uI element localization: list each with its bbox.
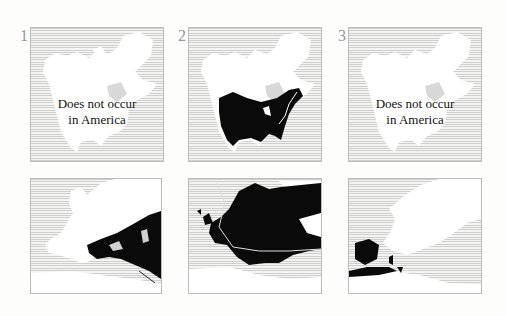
- map-panel-2-north-america: [188, 27, 322, 162]
- map-panel-1-north-america: Does not occur in America: [30, 27, 164, 162]
- caption-line-1: Does not occur: [31, 96, 163, 112]
- europe-range-map: [189, 179, 321, 293]
- panel-number-2: 2: [178, 27, 186, 45]
- caption-line-2: in America: [349, 112, 481, 128]
- map-panel-3-north-america: Does not occur in America: [348, 27, 482, 162]
- map-panel-5-europe: [188, 178, 322, 294]
- north-america-map: [349, 28, 481, 161]
- panel-number-1: 1: [20, 27, 28, 45]
- caption-line-2: in America: [31, 112, 163, 128]
- panel-number-3: 3: [338, 27, 346, 45]
- north-america-map: [31, 28, 163, 161]
- caption-line-1: Does not occur: [349, 96, 481, 112]
- europe-range-map: [31, 179, 161, 293]
- map-panel-6-europe: [348, 178, 482, 294]
- map-panel-4-europe: [30, 178, 162, 294]
- north-america-range-map: [189, 28, 321, 161]
- europe-range-map: [349, 179, 481, 293]
